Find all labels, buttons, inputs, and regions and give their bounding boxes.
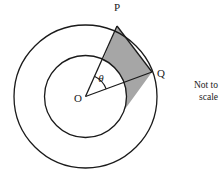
theta-label: θ: [98, 72, 104, 84]
point-label-p: P: [114, 1, 120, 13]
geometry-figure: θ O P Q Not to scale: [0, 0, 224, 178]
not-to-scale-note: Not to scale: [170, 80, 218, 104]
point-label-q: Q: [157, 67, 165, 79]
center-label-o: O: [74, 92, 82, 104]
